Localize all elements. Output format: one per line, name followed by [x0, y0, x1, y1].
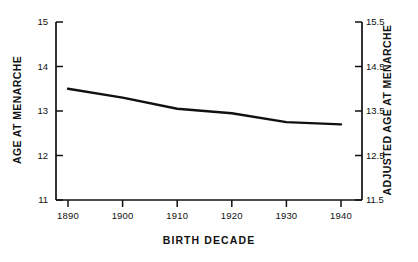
y-axis-tick-label-11: 11	[22, 194, 48, 205]
y-axis-tick-label-15: 15	[22, 16, 48, 27]
x-axis-tick-label-1910: 1910	[157, 210, 197, 221]
x-axis-tick-label-1930: 1930	[266, 210, 306, 221]
x-axis-tick-label-1900: 1900	[103, 210, 143, 221]
y2-axis-title: ADJUSTED AGE AT MENARCHE	[381, 20, 393, 200]
x-axis-tick-label-1920: 1920	[212, 210, 252, 221]
y-axis-tick-label-13: 13	[22, 105, 48, 116]
x-axis-title: BIRTH DECADE	[0, 234, 418, 246]
bottom-axis-ticks	[68, 200, 341, 207]
line-chart-plot	[0, 0, 418, 262]
x-axis-tick-label-1940: 1940	[321, 210, 361, 221]
right-axis-ticks	[355, 22, 362, 200]
y-axis-title: AGE AT MENARCHE	[11, 35, 23, 185]
chart-figure: 15 14 13 12 11 15.5 14.5 13.5 12.5 11.5 …	[0, 0, 418, 262]
y-axis-tick-label-12: 12	[22, 150, 48, 161]
left-axis-ticks	[56, 22, 63, 200]
x-axis-tick-label-1890: 1890	[48, 210, 88, 221]
data-series-line	[68, 89, 341, 125]
y-axis-tick-label-14: 14	[22, 61, 48, 72]
